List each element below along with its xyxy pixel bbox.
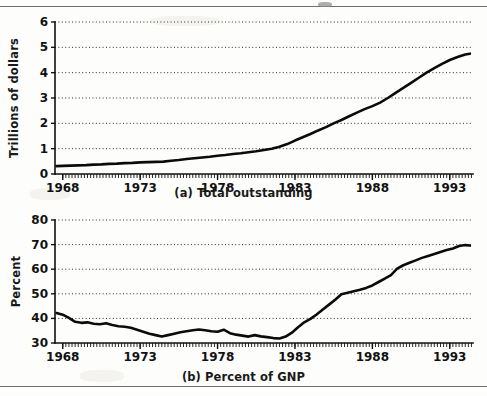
page-rule-top: [0, 6, 487, 7]
y-tick-label: 5: [40, 40, 48, 54]
y-tick-label: 30: [31, 336, 48, 350]
y-tick-label: 80: [31, 213, 48, 227]
y-tick-label: 40: [31, 311, 48, 325]
page-rule-bottom: [0, 386, 487, 387]
y-axis-title: Trillions of dollars: [7, 38, 21, 158]
y-tick-label: 1: [40, 142, 48, 156]
x-tick-label: 1973: [123, 350, 156, 364]
chart-svg-percent-of-gnp: 304050607080196819731978198319881993Perc…: [0, 204, 487, 384]
y-axis-title: Percent: [9, 255, 23, 307]
y-tick-label: 6: [40, 15, 48, 29]
y-tick-label: 60: [31, 262, 48, 276]
x-tick-label: 1993: [433, 350, 466, 364]
chart-caption-a: (a) Total outstanding: [0, 186, 487, 200]
chart-panel-total-outstanding: 0123456196819731978198319881993Trillions…: [0, 8, 487, 204]
x-tick-label: 1968: [46, 350, 79, 364]
y-tick-label: 2: [40, 116, 48, 130]
y-tick-label: 70: [31, 238, 48, 252]
y-tick-label: 3: [40, 91, 48, 105]
data-series-line: [57, 245, 470, 338]
y-tick-label: 0: [40, 167, 48, 181]
chart-panel-percent-of-gnp: 304050607080196819731978198319881993Perc…: [0, 204, 487, 384]
x-tick-label: 1988: [356, 350, 389, 364]
chart-caption-b: (b) Percent of GNP: [0, 370, 487, 384]
figure-page: 0123456196819731978198319881993Trillions…: [0, 0, 487, 396]
y-tick-label: 4: [40, 66, 48, 80]
y-tick-label: 50: [31, 287, 48, 301]
x-tick-label: 1983: [278, 350, 311, 364]
x-tick-label: 1978: [201, 350, 234, 364]
chart-svg-total-outstanding: 0123456196819731978198319881993Trillions…: [0, 8, 487, 204]
data-series-line: [57, 54, 470, 166]
